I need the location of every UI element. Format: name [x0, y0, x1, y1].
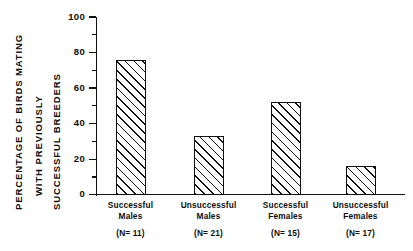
bar-chart-figure: PERCENTAGE OF BIRDS MATING WITH PREVIOUS… — [0, 0, 413, 251]
y-tick-label: 80 — [57, 46, 85, 58]
y-tick-label: 0 — [57, 188, 85, 200]
y-tick-minor — [92, 176, 96, 177]
y-tick-major — [89, 16, 96, 17]
bar — [271, 102, 301, 194]
y-tick-label: 60 — [57, 82, 85, 94]
bar — [116, 60, 146, 195]
y-tick-label-text: 40 — [57, 117, 85, 128]
y-tick-major — [89, 194, 96, 195]
y-tick-minor — [92, 70, 96, 71]
y-tick-label: 20 — [57, 153, 85, 165]
y-tick-minor — [92, 105, 96, 106]
y-axis-line — [96, 17, 97, 196]
y-tick-major — [89, 52, 96, 53]
y-axis-title-line-2: WITH PREVIOUSLY — [33, 95, 44, 196]
y-tick-label: 40 — [57, 117, 85, 129]
y-tick-label-text: 100 — [57, 11, 85, 22]
y-tick-major — [89, 159, 96, 160]
bar — [194, 136, 224, 195]
y-axis-title-line-1: PERCENTAGE OF BIRDS MATING — [13, 34, 24, 210]
category-label: UnsuccessfulFemales — [312, 200, 410, 221]
y-tick-minor — [92, 141, 96, 142]
y-tick-label: 100 — [57, 11, 85, 23]
y-tick-minor — [92, 34, 96, 35]
category-label-line: Females — [312, 211, 410, 222]
y-tick-label-text: 20 — [57, 153, 85, 164]
bar — [346, 166, 376, 194]
y-tick-label-text: 0 — [57, 188, 85, 199]
sample-size-label: (N= 17) — [312, 228, 410, 238]
category-label-line: Unsuccessful — [312, 200, 410, 211]
y-tick-major — [89, 87, 96, 88]
y-tick-label-text: 80 — [57, 46, 85, 57]
y-tick-major — [89, 123, 96, 124]
y-tick-label-text: 60 — [57, 82, 85, 93]
y-axis-title: PERCENTAGE OF BIRDS MATING WITH PREVIOUS… — [0, 0, 78, 215]
